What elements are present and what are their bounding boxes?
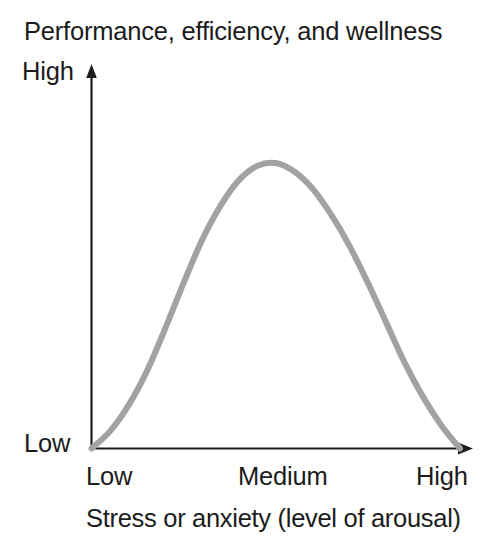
chart-container: Performance, efficiency, and wellness Hi… [0, 0, 498, 551]
x-tick-label-low: Low [86, 461, 132, 491]
x-axis-tick-labels: Low Medium High [86, 461, 474, 493]
x-tick-label-high: High [416, 461, 468, 491]
y-axis-arrow-icon [86, 64, 97, 78]
x-axis-caption: Stress or anxiety (level of arousal) [86, 503, 486, 533]
inverted-u-curve [92, 163, 461, 449]
x-tick-label-medium: Medium [238, 461, 328, 491]
